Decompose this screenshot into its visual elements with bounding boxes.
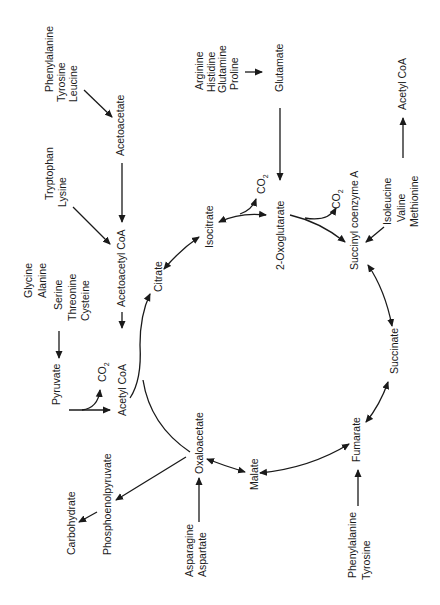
isocitrate-label: Isocitrate [203, 205, 215, 248]
acetoacetyl-coa-label: Acetoacetyl CoA [115, 229, 127, 307]
acetoacetate-label: Acetoacetate [114, 95, 126, 156]
svg-text:CO2: CO2 [255, 174, 269, 194]
aa-lysine: Lysine [56, 177, 68, 207]
pyruvate-label: Pyruvate [50, 363, 62, 405]
arrow-pep-to-carbohydrate [79, 512, 97, 522]
arrow-isocitrate-co2 [240, 199, 256, 214]
co2-text: CO [96, 366, 108, 382]
amino-group-oxaloacetate: Asparagine Aspartate [183, 524, 208, 577]
co2-isocitrate: CO2 [255, 174, 269, 194]
co2-text: CO [255, 178, 267, 194]
co2-pyruvate: CO2 [96, 362, 110, 382]
carbohydrate-label: Carbohydrate [65, 491, 77, 555]
amino-group-fumarate: Phenylalanine Tyrosine [346, 512, 372, 580]
aa-arginine: Arginine [193, 51, 205, 90]
arrow-succinylcoa-succinate [368, 265, 392, 326]
aa-leucine: Leucine [67, 65, 79, 102]
arrow-pyruvate-co2 [82, 390, 100, 410]
aa-phenylalanine-2: Phenylalanine [346, 512, 358, 578]
aa-glutamine: Glutamine [216, 45, 228, 93]
aa-cysteine: Cysteine [79, 280, 91, 321]
arc-oxaloacetate-to-citrate [143, 380, 190, 452]
arrow-succinate-fumarate [366, 382, 388, 422]
amino-group-pyruvate: Glycine Alanine Serine Threonine Cystein… [22, 263, 91, 321]
co2-oxoglutarate: CO2 [330, 189, 344, 209]
svg-text:CO2: CO2 [96, 362, 110, 382]
co2-subscript: 2 [262, 174, 269, 178]
arrow-citrate-isocitrate [164, 237, 199, 269]
arrow-oxaloacetate-to-pep [116, 457, 186, 500]
amino-group-succinyl-coa: Isoleucine Valine Methionine [381, 175, 420, 227]
aa-tyrosine-2: Tyrosine [360, 540, 372, 580]
aa-tryptophan: Tryptophan [43, 147, 55, 200]
aa-asparagine: Asparagine [183, 524, 195, 577]
arrow-trp-lys [73, 207, 110, 244]
arrow-to-succinylcoa [366, 227, 384, 242]
aa-aspartate: Aspartate [196, 532, 208, 577]
acetyl-coa-label: Acetyl CoA [116, 364, 128, 416]
phosphoenolpyruvate-label: Phosphoenolpyruvate [101, 453, 113, 555]
aa-glycine: Glycine [22, 263, 34, 298]
arrow-to-acetoacetate [84, 90, 112, 117]
aa-isoleucine: Isoleucine [381, 178, 393, 225]
aa-threonine: Threonine [66, 274, 78, 321]
fumarate-label: Fumarate [350, 417, 362, 462]
arrow-to-citrate [130, 294, 150, 398]
succinyl-coa-label: Succinyl coenzyme A [348, 171, 360, 270]
succinate-label: Succinate [388, 328, 400, 374]
glutamate-label: Glutamate [273, 43, 285, 92]
aa-valine: Valine [395, 193, 407, 222]
svg-text:CO2: CO2 [330, 189, 344, 209]
tca-cycle-diagram: Phenylalanine Tyrosine Leucine Acetoacet… [0, 0, 440, 605]
arrow-isocitrate-oxoglutarate [219, 214, 266, 222]
oxoglutarate-label: 2-Oxoglutarate [274, 200, 286, 270]
aa-methionine: Methionine [408, 175, 420, 227]
arrow-fumarate-malate [260, 444, 349, 473]
arrow-malate-oxaloacetate [207, 459, 245, 472]
acetyl-coa-right-label: Acetyl CoA [396, 58, 408, 110]
amino-group-acetoacetate: Phenylalanine Tyrosine Leucine [43, 26, 79, 102]
co2-text: CO [330, 193, 342, 209]
co2-subscript: 2 [103, 362, 110, 366]
aa-tyrosine: Tyrosine [55, 62, 67, 102]
aa-alanine: Alanine [36, 263, 48, 298]
aa-phenylalanine: Phenylalanine [43, 26, 55, 92]
malate-label: Malate [248, 458, 260, 490]
aa-serine: Serine [52, 279, 64, 310]
amino-group-glutamate: Arginine Histidine Glutamine Proline [193, 45, 240, 93]
co2-subscript: 2 [337, 189, 344, 193]
citrate-label: Citrate [152, 261, 164, 292]
oxaloacetate-label: Oxaloacetate [193, 412, 205, 474]
aa-proline: Proline [228, 57, 240, 90]
amino-group-acetoacetyl-coa: Tryptophan Lysine [43, 147, 68, 207]
